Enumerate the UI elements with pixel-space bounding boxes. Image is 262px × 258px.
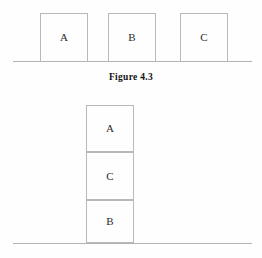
block-a-stack: A — [86, 105, 134, 152]
ground-line-bottom-panel — [13, 243, 252, 244]
block-b-stack-label: B — [106, 216, 114, 227]
block-b-stack: B — [86, 200, 134, 243]
block-c-stack-label: C — [106, 171, 114, 182]
figure-4-3: A B C Figure 4.3 A C B — [0, 0, 262, 258]
block-c-stack: C — [86, 152, 134, 200]
block-a-stack-label: A — [106, 123, 114, 134]
bottom-panel: A C B — [0, 0, 262, 258]
